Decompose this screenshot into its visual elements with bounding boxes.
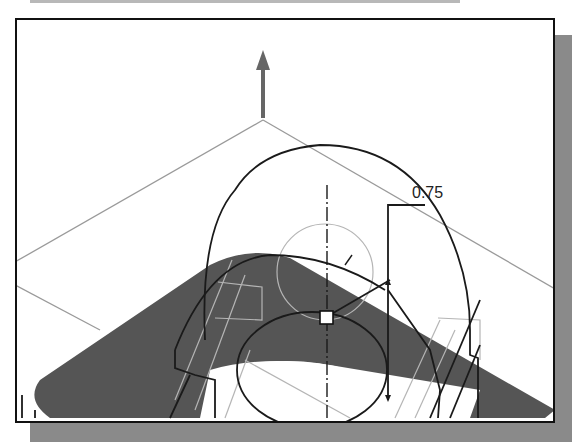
top-divider	[30, 0, 460, 3]
square-point-icon[interactable]	[320, 311, 333, 324]
cad-scene[interactable]	[15, 18, 555, 423]
tangent-tick	[345, 255, 352, 265]
cad-viewport[interactable]	[15, 18, 555, 423]
dimension-label[interactable]: 0.75	[412, 184, 443, 202]
arrow-up-icon	[256, 50, 270, 118]
